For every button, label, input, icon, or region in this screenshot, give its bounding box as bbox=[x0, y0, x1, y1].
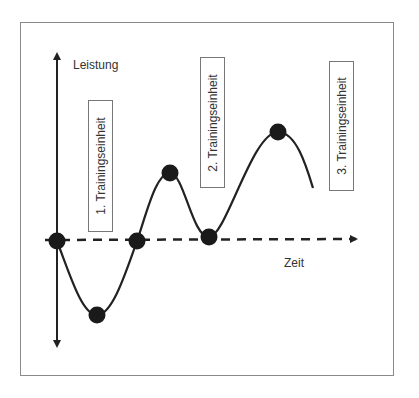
x-axis bbox=[45, 239, 356, 240]
training-session-box-2: 2. Trainingseinheit bbox=[200, 57, 225, 188]
curve-points bbox=[49, 124, 287, 324]
training-session-label-3: 3. Trainingseinheit bbox=[335, 77, 349, 174]
point-start bbox=[49, 233, 66, 250]
point-baseline-cross-1 bbox=[129, 233, 146, 250]
point-trough bbox=[89, 307, 106, 324]
point-baseline-cross-2 bbox=[201, 229, 218, 246]
x-axis-label: Zeit bbox=[284, 256, 304, 270]
training-session-box-1: 1. Trainingseinheit bbox=[88, 100, 113, 232]
training-session-box-3: 3. Trainingseinheit bbox=[329, 61, 354, 191]
training-session-label-2: 2. Trainingseinheit bbox=[206, 74, 220, 171]
point-peak-1 bbox=[162, 165, 179, 182]
point-peak-2 bbox=[270, 124, 287, 141]
y-axis-label: Leistung bbox=[73, 58, 118, 72]
training-session-label-1: 1. Trainingseinheit bbox=[94, 117, 108, 214]
